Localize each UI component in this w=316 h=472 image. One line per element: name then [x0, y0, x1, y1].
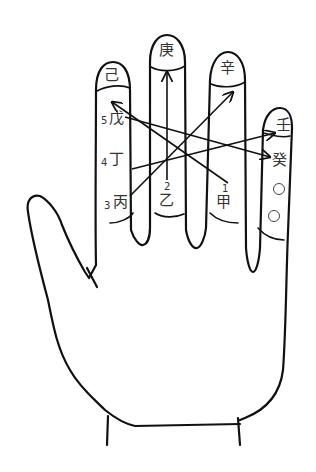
pinky-base-crease [258, 228, 284, 240]
label-bing: 丙 [113, 195, 128, 210]
arrow-3-bing-to-xin [130, 92, 233, 196]
label-gui: 癸 [272, 153, 287, 168]
ring-tip-crease [211, 82, 245, 87]
label-geng-middle-tip: 庚 [159, 43, 174, 58]
circle-mark-2 [268, 210, 280, 222]
label-xin-ring-tip: 辛 [220, 61, 235, 76]
label-wu: 戊 [109, 111, 124, 126]
circle-mark-1 [273, 183, 285, 195]
label-ji-index-tip: 己 [104, 68, 119, 83]
hand-outline [0, 0, 316, 472]
label-jia: 甲 [216, 195, 231, 210]
index-base-crease [110, 213, 133, 223]
arrow-5-wu-to-gui [125, 117, 270, 157]
middle-tip-crease [151, 66, 185, 71]
number-3: 3 [104, 201, 110, 211]
wrist-left [107, 416, 108, 445]
wrist-right [238, 418, 240, 445]
index-tip-crease [97, 86, 130, 91]
middle-base-crease [155, 213, 184, 217]
ring-base-crease [210, 213, 238, 223]
thumb-outline [96, 35, 292, 420]
label-ding: 丁 [109, 152, 124, 167]
label-yi: 乙 [159, 193, 174, 208]
number-5: 5 [101, 116, 107, 126]
number-4: 4 [101, 158, 107, 168]
label-ren-pinky-tip: 壬 [276, 118, 291, 133]
thumb [28, 196, 240, 426]
